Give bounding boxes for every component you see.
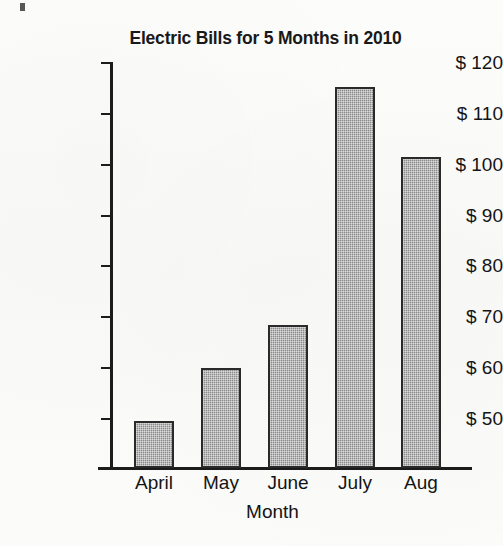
bar-july: [335, 87, 375, 468]
bar-may: [201, 368, 241, 468]
y-axis-tick: [101, 62, 111, 64]
bar-april: [134, 421, 174, 468]
y-axis-tick: [101, 215, 111, 217]
y-axis-tick: [101, 265, 111, 267]
y-axis-tick: [101, 367, 111, 369]
bar-june: [268, 325, 308, 468]
x-axis-label-aug: Aug: [376, 472, 466, 494]
y-axis-tick: [101, 113, 111, 115]
y-axis-tick: [101, 164, 111, 166]
bar-aug: [401, 157, 441, 468]
x-axis-title: Month: [0, 501, 503, 523]
y-axis-tick: [101, 316, 111, 318]
y-axis-tick: [101, 418, 111, 420]
y-axis-tick-label: $ 110: [407, 103, 503, 125]
bar-chart-plot: $ 50$ 60$ 70$ 80$ 90$ 100$ 110$ 120 Apri…: [0, 0, 503, 546]
y-axis-tick-label: $ 120: [407, 52, 503, 74]
